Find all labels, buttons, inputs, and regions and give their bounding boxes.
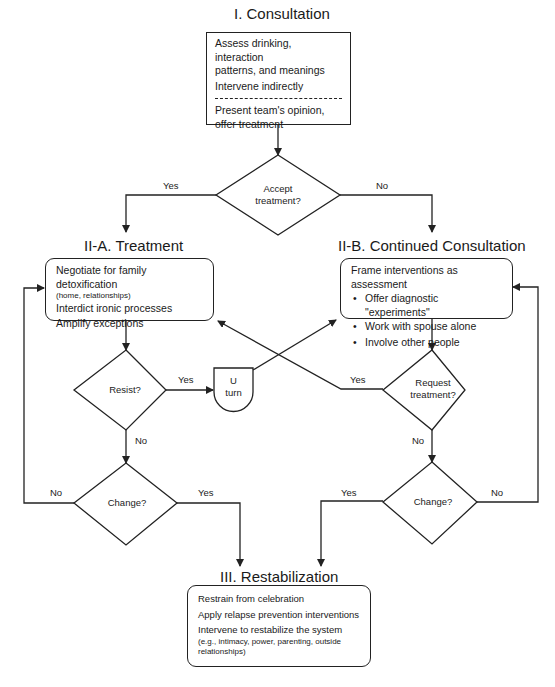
consultation-line: Intervene indirectly — [215, 80, 342, 94]
continued-heading: Frame interventions as assessment — [351, 264, 502, 291]
u-turn-text: U turn — [214, 375, 253, 399]
continued-bullet-list: Offer diagnostic "experiments" Work with… — [351, 292, 502, 349]
consultation-line: Present team's opinion, — [215, 104, 342, 118]
restabilization-item: Restrain from celebration — [198, 592, 360, 606]
request-no-label: No — [412, 435, 424, 446]
resist-yes-label: Yes — [178, 374, 194, 385]
accept-line2: treatment? — [246, 195, 310, 207]
continued-bullet: Work with spouse alone — [351, 320, 502, 334]
change-right-yes-label: Yes — [341, 487, 357, 498]
resist-no-label: No — [135, 435, 147, 446]
u-turn-line1: U — [214, 375, 253, 387]
request-line2: treatment? — [398, 389, 468, 401]
arrow-accept-yes — [126, 195, 216, 232]
change-left-yes-label: Yes — [198, 487, 214, 498]
continued-bullet: Offer diagnostic "experiments" — [351, 292, 502, 319]
accept-treatment-text: Accept treatment? — [246, 183, 310, 207]
continued-consultation-title: II-B. Continued Consultation — [338, 237, 526, 254]
request-line1: Request — [398, 377, 468, 389]
treatment-item: Interdict ironic processes — [56, 302, 203, 316]
restabilization-item: Intervene to restabilize the system — [198, 623, 360, 637]
accept-line1: Accept — [246, 183, 310, 195]
resist-text: Resist? — [98, 384, 152, 396]
continued-consultation-box: Frame interventions as assessment Offer … — [340, 258, 513, 319]
arrow-uturn-to-continued — [253, 320, 336, 370]
restabilization-title: III. Restabilization — [220, 568, 338, 585]
treatment-item: Negotiate for family detoxification — [56, 264, 203, 291]
restabilization-item: Apply relapse prevention interventions — [198, 608, 360, 622]
treatment-box: Negotiate for family detoxification (hom… — [45, 258, 214, 321]
treatment-item-note: (home, relationships) — [56, 291, 203, 301]
arrow-accept-no — [340, 195, 432, 232]
treatment-item: Amplify exceptions — [56, 317, 203, 331]
dashed-divider — [215, 98, 342, 99]
restabilization-box: Restrain from celebration Apply relapse … — [187, 585, 371, 667]
arrow-change-right-yes — [321, 501, 383, 566]
consultation-title: I. Consultation — [234, 5, 330, 22]
restabilization-item-note: (e.g., intimacy, power, parenting, outsi… — [198, 637, 348, 657]
arrow-change-left-yes — [177, 503, 240, 566]
change-left-no-label: No — [50, 487, 62, 498]
consultation-line: Assess drinking, interaction — [215, 37, 342, 64]
request-treatment-text: Request treatment? — [398, 377, 468, 401]
request-yes-label: Yes — [350, 374, 366, 385]
change-right-no-label: No — [491, 487, 503, 498]
consultation-line: offer treatment — [215, 118, 342, 132]
consultation-line: patterns, and meanings — [215, 64, 342, 78]
continued-bullet: Involve other people — [351, 336, 502, 350]
accept-no-label: No — [376, 180, 388, 191]
change-right-text: Change? — [404, 496, 462, 508]
accept-yes-label: Yes — [163, 180, 179, 191]
u-turn-line2: turn — [214, 387, 253, 399]
treatment-title: II-A. Treatment — [84, 237, 183, 254]
change-left-text: Change? — [98, 497, 156, 509]
consultation-box: Assess drinking, interaction patterns, a… — [206, 32, 351, 125]
